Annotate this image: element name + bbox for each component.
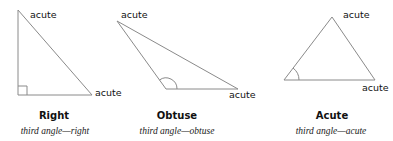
obtuse-triangle-title: Obtuse <box>127 111 227 121</box>
acute-top-angle-label: acute <box>343 10 370 20</box>
right-triangle-title: Right <box>4 111 104 121</box>
obtuse-triangle-caption: third angle—obtuse <box>112 127 242 137</box>
acute-triangle-title: Acute <box>282 111 382 121</box>
acute-triangle-caption: third angle—acute <box>266 127 393 137</box>
right-angle-marker <box>18 86 27 95</box>
obtuse-triangle <box>117 21 238 89</box>
right-triangle <box>18 10 92 95</box>
right-bottom-angle-label: acute <box>95 88 122 98</box>
acute-triangle <box>284 17 375 80</box>
acute-angle-arc <box>293 68 299 80</box>
right-top-angle-label: acute <box>30 10 57 20</box>
obtuse-top-angle-label: acute <box>121 10 148 20</box>
obtuse-bottom-angle-label: acute <box>229 90 256 100</box>
right-triangle-caption: third angle—right <box>0 127 120 137</box>
acute-bottom-angle-label: acute <box>362 83 389 93</box>
